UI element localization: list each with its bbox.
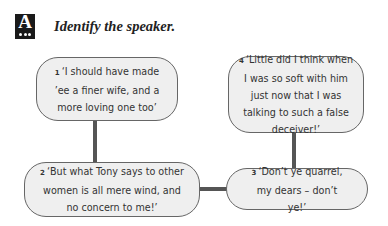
bubble-text: ‘Little did I think when I was so soft w…	[243, 54, 353, 135]
activity-a-icon: A	[15, 14, 35, 39]
bubble-number: 4	[239, 57, 244, 65]
speech-bubble-2: 2‘But what Tony says to other women is a…	[24, 162, 200, 217]
bubble-number: 3	[252, 169, 257, 177]
connector-2-3	[199, 187, 228, 191]
speech-bubble-3: 3‘Don’t ye quarrel, my dears – don’t ye!…	[226, 168, 368, 210]
icon-dots	[19, 33, 31, 36]
speech-bubble-1: 1‘I should have made ’ee a finer wife, a…	[36, 57, 178, 121]
bubble-text: ‘But what Tony says to other women is al…	[43, 166, 184, 213]
bubble-text: ‘Don’t ye quarrel, my dears – don’t ye!’	[257, 166, 343, 213]
connector-1-2	[93, 120, 97, 164]
speech-bubble-4: 4‘Little did I think when I was so soft …	[228, 56, 364, 133]
icon-letter: A	[15, 12, 35, 32]
page-title: Identify the speaker.	[54, 18, 175, 35]
bubble-number: 1	[55, 69, 60, 77]
bubble-text: ‘I should have made ’ee a finer wife, an…	[55, 66, 160, 113]
bubble-number: 2	[40, 169, 45, 177]
